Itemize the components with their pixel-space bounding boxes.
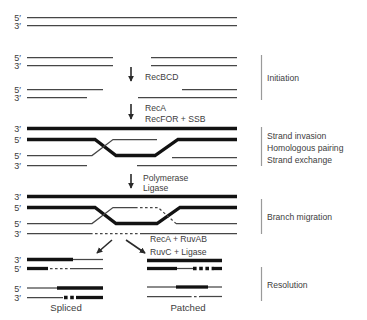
donor-displaced-strand [27, 140, 237, 156]
diagonal-arrow-left-icon [97, 240, 112, 253]
product-spliced: 3′ 5′ 5′ 3′ Spliced [14, 255, 103, 314]
spliced-caption: Spliced [50, 302, 81, 313]
strand-label-5prime: 5′ [14, 135, 21, 145]
strand-label-5prime: 5′ [14, 219, 21, 229]
strand-label-5prime: 5′ [14, 264, 21, 274]
stage-label-strand-invasion: Strand invasion [267, 131, 326, 141]
stage-label-homologous-pairing: Homologous pairing [267, 143, 344, 153]
step-resolution: RecA + RuvAB RuvC + Ligase [97, 234, 207, 257]
diagonal-arrow-right-icon [126, 240, 145, 253]
product-patched: Patched [147, 261, 222, 314]
strand-label-5prime: 5′ [14, 203, 21, 213]
strand-label-5prime: 5′ [14, 151, 21, 161]
step-label-recfor-ssb: RecFOR + SSB [145, 114, 206, 124]
step-label-recbcd: RecBCD [145, 72, 178, 82]
stage-label-initiation: Initiation [267, 73, 299, 83]
duplex-broken: 5′ 3′ [14, 53, 237, 71]
recombination-pathway-figure: 5′ 3′ 5′ 3′ RecBCD 5′ 3′ RecA RecFOR + S… [0, 0, 367, 320]
joint-molecule-branch-migration: 3′ 5′ 5′ 3′ [14, 192, 237, 239]
patched-caption: Patched [170, 302, 205, 313]
strand-label-3prime: 3′ [14, 192, 21, 202]
step-polymerase-ligase: Polymerase Ligase [131, 173, 189, 194]
invading-strand [27, 208, 135, 224]
invading-strand [27, 140, 157, 156]
duplex-resected: 5′ 3′ [14, 85, 237, 103]
joint-molecule-invasion: 3′ 5′ 5′ 3′ [14, 124, 237, 171]
strand-label-3prime: 3′ [14, 229, 21, 239]
strand-label-3prime: 3′ [14, 124, 21, 134]
step-label-reca: RecA [145, 103, 166, 113]
donor-crossover-strand [27, 208, 237, 224]
recombination-diagram: 5′ 3′ 5′ 3′ RecBCD 5′ 3′ RecA RecFOR + S… [0, 0, 367, 320]
step-label-reca-ruvab: RecA + RuvAB [150, 234, 207, 244]
strand-label-3prime: 3′ [14, 93, 21, 103]
strand-label-3prime: 3′ [14, 293, 21, 303]
strand-label-3prime: 3′ [14, 61, 21, 71]
step-label-ruvc-ligase: RuvC + Ligase [150, 247, 207, 257]
step-label-polymerase: Polymerase [143, 173, 189, 183]
step-label-ligase: Ligase [143, 183, 169, 193]
stage-label-branch-migration: Branch migration [267, 212, 332, 222]
strand-label-5prime: 5′ [14, 284, 21, 294]
strand-label-3prime: 3′ [14, 21, 21, 31]
step-reca-recfor: RecA RecFOR + SSB [131, 103, 206, 124]
strand-label-3prime: 3′ [14, 161, 21, 171]
step-recbcd: RecBCD [131, 67, 178, 82]
duplex-intact: 5′ 3′ [14, 13, 237, 31]
stage-label-strand-exchange: Strand exchange [267, 155, 332, 165]
stage-label-resolution: Resolution [267, 280, 308, 290]
stage-brackets: Initiation Strand invasion Homologous pa… [262, 55, 344, 301]
